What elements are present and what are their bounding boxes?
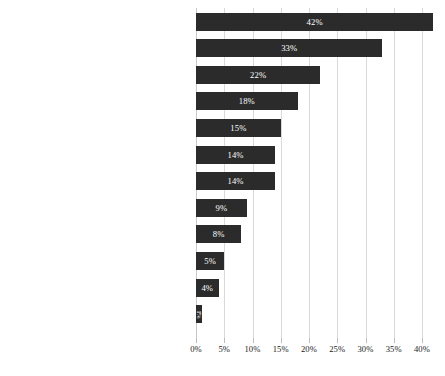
x-tick-label: 40% bbox=[414, 344, 430, 354]
bar-fill: 18% bbox=[196, 92, 298, 110]
bar-fill: 5% bbox=[196, 252, 224, 270]
x-tick-mark bbox=[422, 338, 423, 343]
bar-value-label: 14% bbox=[228, 176, 244, 186]
bar: 14% bbox=[196, 146, 275, 164]
bar-value-label: 1% bbox=[195, 310, 203, 317]
x-axis: 0%5%10%15%20%25%30%35%40% bbox=[196, 344, 422, 366]
bar: 15% bbox=[196, 119, 281, 137]
bar-value-label: 14% bbox=[228, 150, 244, 160]
bar-row: Food18% bbox=[196, 88, 422, 115]
bar-value-label: 42% bbox=[307, 17, 323, 27]
bar-value-label: 9% bbox=[216, 203, 228, 213]
plot-area: Fashion (clothes, shoes, jewelry, access… bbox=[196, 8, 422, 342]
bar-row: Technical products33% bbox=[196, 35, 422, 62]
x-tick-mark bbox=[281, 338, 282, 343]
bar-chart: Fashion (clothes, shoes, jewelry, access… bbox=[0, 0, 445, 376]
bar-fill: 33% bbox=[196, 39, 382, 57]
x-tick-mark bbox=[224, 338, 225, 343]
bar-value-label: 8% bbox=[213, 229, 225, 239]
bar-row: Subscription services (TV, Netflix, news… bbox=[196, 194, 422, 221]
bar-fill: 1% bbox=[196, 305, 202, 323]
bar: 14% bbox=[196, 172, 275, 190]
bar-value-label: 15% bbox=[230, 123, 246, 133]
x-tick-label: 25% bbox=[329, 344, 345, 354]
x-tick-mark bbox=[337, 338, 338, 343]
bar-fill: 14% bbox=[196, 146, 275, 164]
x-tick-label: 20% bbox=[301, 344, 317, 354]
bar: 22% bbox=[196, 66, 320, 84]
bar-row: Leisure items (including games)14% bbox=[196, 168, 422, 195]
bar-fill: 22% bbox=[196, 66, 320, 84]
bar: 4% bbox=[196, 279, 219, 297]
bar-fill: 4% bbox=[196, 279, 219, 297]
bar-value-label: 18% bbox=[239, 96, 255, 106]
bar: 1% bbox=[196, 305, 202, 323]
x-tick-label: 15% bbox=[273, 344, 289, 354]
bar: 33% bbox=[196, 39, 382, 57]
bar: 8% bbox=[196, 225, 241, 243]
bar-row: Pet supplies4% bbox=[196, 274, 422, 301]
bar-fill: 9% bbox=[196, 199, 247, 217]
bar-row: Furniture and home accessories15% bbox=[196, 114, 422, 141]
bar: 9% bbox=[196, 199, 247, 217]
bar-fill: 8% bbox=[196, 225, 241, 243]
x-tick-mark bbox=[253, 338, 254, 343]
bar-value-label: 5% bbox=[204, 256, 216, 266]
bar-fill: 15% bbox=[196, 119, 281, 137]
x-tick-mark bbox=[309, 338, 310, 343]
gridline bbox=[422, 8, 423, 342]
x-tick-label: 10% bbox=[244, 344, 260, 354]
bar-value-label: 33% bbox=[281, 43, 297, 53]
x-tick-mark bbox=[196, 338, 197, 343]
bar-row: Gifts1% bbox=[196, 301, 422, 328]
bar-value-label: 22% bbox=[250, 70, 266, 80]
bar-row: Fashion (clothes, shoes, jewelry, access… bbox=[196, 8, 422, 35]
x-tick-mark bbox=[366, 338, 367, 343]
bar: 42% bbox=[196, 13, 433, 31]
x-tick-label: 0% bbox=[190, 344, 202, 354]
bar-row: Music and books (incl. online/streaming … bbox=[196, 61, 422, 88]
bar-fill: 14% bbox=[196, 172, 275, 190]
bar-row: Beauty and health8% bbox=[196, 221, 422, 248]
bar-value-label: 4% bbox=[201, 283, 213, 293]
bar: 18% bbox=[196, 92, 298, 110]
x-tick-label: 5% bbox=[218, 344, 230, 354]
bar-fill: 42% bbox=[196, 13, 433, 31]
bar-row: Sporting goods5% bbox=[196, 247, 422, 274]
x-tick-mark bbox=[394, 338, 395, 343]
bar: 5% bbox=[196, 252, 224, 270]
bar-row: Travel (accommodation, transport, ticket… bbox=[196, 141, 422, 168]
x-tick-label: 30% bbox=[357, 344, 373, 354]
x-tick-label: 35% bbox=[386, 344, 402, 354]
